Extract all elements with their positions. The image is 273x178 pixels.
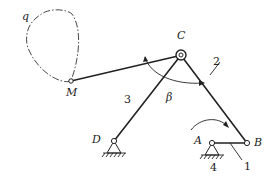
label-beta: β xyxy=(165,91,172,104)
point-m xyxy=(69,79,73,83)
label-link-1: 1 xyxy=(244,160,251,173)
leader-link-1 xyxy=(230,143,242,160)
crank-rotation-arrow-icon xyxy=(223,121,229,128)
label-a: A xyxy=(193,134,202,147)
joint-b xyxy=(244,140,249,145)
label-link-4: 4 xyxy=(210,161,217,174)
arrow-head-beta-start xyxy=(143,56,148,62)
label-b: B xyxy=(253,136,262,149)
label-link-2: 2 xyxy=(213,55,220,68)
label-link-3: 3 xyxy=(124,93,131,106)
link-2-cb xyxy=(183,58,247,143)
label-c: C xyxy=(177,29,186,42)
coupler-curve-q xyxy=(27,10,79,82)
label-d: D xyxy=(91,133,101,146)
crank-rotation-arc xyxy=(191,120,227,130)
joint-c-pin xyxy=(179,53,183,57)
linkage-diagram: q M C D A B β 1 2 3 4 xyxy=(0,0,273,178)
coupler-arm-cm xyxy=(71,56,178,81)
label-q: q xyxy=(22,10,29,23)
label-m: M xyxy=(65,86,78,99)
ground-support-d xyxy=(102,138,126,157)
